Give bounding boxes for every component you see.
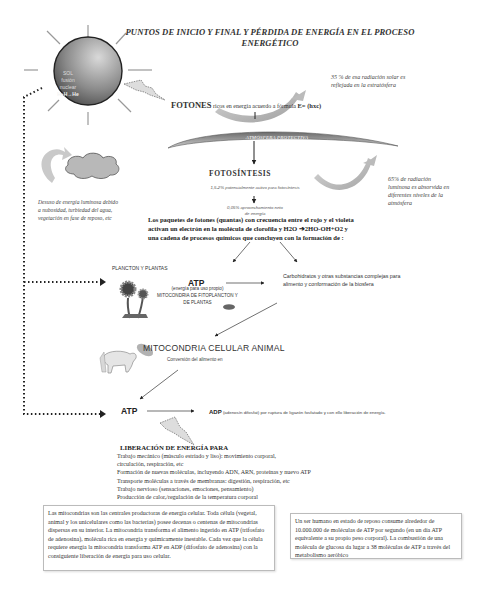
lightning-icon xyxy=(124,80,165,100)
cloud-icon xyxy=(66,153,119,178)
mitochondria-info-box: Las mitocondrias son las centrales produ… xyxy=(43,505,275,571)
fotosintesis-sub1: 1,5-2% potencialmente activo para fotosí… xyxy=(180,185,330,190)
fotones-label: FOTONES ricos en energía acuerdo a fórmu… xyxy=(171,100,321,110)
page-title: PUNTOS DE INICIO Y FINAL Y PÉRDIDA DE EN… xyxy=(120,27,420,49)
loss-note: Desuso de energía luminosa debido a nubo… xyxy=(38,198,148,222)
dotted-return-line xyxy=(24,88,100,414)
liberacion-title: LIBERACIÓN DE ENERGÍA PARA xyxy=(120,444,228,451)
liberacion-item: Formación de nuevas moléculas, incluyend… xyxy=(117,468,311,476)
absorption-note: 65% de radiación luminosa es absorvida e… xyxy=(388,175,449,207)
atp-animal: ATP xyxy=(121,406,137,416)
liberacion-item: Trabajo mecánico (músculo estriado y lis… xyxy=(117,452,311,460)
fotosintesis-title: FOTOSÍNTESIS xyxy=(200,169,280,178)
reflection-note: 35 % de esa radiación solar es reflejada… xyxy=(331,73,405,89)
adp-text: ADP (adenosín difosfat) por ruptura de l… xyxy=(209,409,386,415)
lightning-bottom-icon xyxy=(160,417,194,445)
liberacion-list: Trabajo mecánico (músculo estriado y lis… xyxy=(117,452,311,501)
liberacion-item: circulación, respiración, etc xyxy=(117,460,311,468)
sun-label: SOL fusión nuclear H+H→He xyxy=(48,70,88,98)
atp-consumption-info-box: Un ser humano en estado de reposo consum… xyxy=(290,513,462,559)
liberacion-item: Producción de calor,/regulación de la te… xyxy=(117,493,311,501)
plancton-label: PLANCTON Y PLANTAS xyxy=(112,265,167,271)
conversion-text: Conversión del alimento en xyxy=(167,357,223,362)
atmosphere-label: ATMÓSFERA PROTECTIVA xyxy=(222,135,332,140)
plants-icon xyxy=(121,282,148,318)
carbohidratos-text: Carbohidratos y otras substancias comple… xyxy=(283,272,458,288)
liberacion-item: Trabajo nervioso (sensaciones, emociones… xyxy=(117,485,311,493)
atp-plancton-sub: (energía para uso propio) MITOCONDRIA DE… xyxy=(150,285,245,306)
liberacion-item: Transporte moléculas a través de membran… xyxy=(117,477,311,485)
mitocondria-animal-title: MITOCONDRIA CELULAR ANIMAL xyxy=(143,343,285,353)
paquetes-text: Los paquetes de fotones (quantas) con cr… xyxy=(148,215,418,242)
